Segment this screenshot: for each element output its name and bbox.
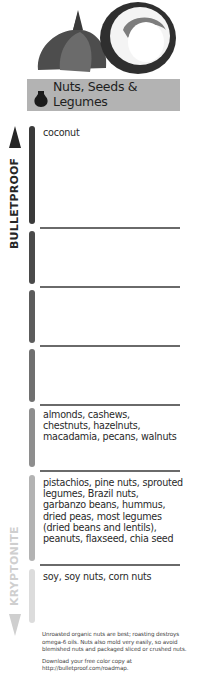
row-divider [40, 470, 180, 472]
pot-icon [34, 91, 48, 107]
row-divider [40, 227, 180, 229]
row-6-foods: pistachios, pine nuts, sprouted legumes,… [43, 477, 183, 544]
row-5-foods: almonds, cashews, chestnuts, hazelnuts, … [43, 409, 179, 443]
kryptonite-text: KRYPTONITE [8, 520, 22, 612]
row-divider [40, 564, 180, 566]
footer-notes: Unroasted organic nuts are best; roastin… [42, 631, 187, 677]
scale-pill-7 [29, 569, 35, 623]
arrow-down-icon [8, 614, 22, 636]
category-banner: Nuts, Seeds & Legumes [27, 79, 180, 111]
scale-pill-1 [29, 126, 35, 224]
category-title: Nuts, Seeds & Legumes [53, 80, 137, 109]
row-divider [40, 404, 180, 406]
bulletproof-label: BULLETPROOF [8, 126, 22, 256]
scale-pill-6 [29, 475, 35, 561]
footer-download: Download your free color copy at http://… [42, 658, 187, 673]
category-title-line1: Nuts, Seeds & [53, 80, 137, 95]
kryptonite-label: KRYPTONITE [8, 520, 22, 638]
garlic-coconut-illustration [28, 0, 178, 80]
row-7-foods: soy, soy nuts, corn nuts [43, 571, 183, 582]
scale-pill-5 [29, 408, 35, 467]
row-divider [40, 345, 180, 347]
scale-pill-4 [29, 349, 35, 402]
bulletproof-text: BULLETPROOF [8, 152, 22, 254]
arrow-up-icon [8, 126, 22, 148]
row-divider [40, 286, 180, 288]
footer-note: Unroasted organic nuts are best; roastin… [42, 631, 187, 654]
scale-pill-2 [29, 231, 35, 284]
scale-pill-3 [29, 290, 35, 343]
row-1-foods: coconut [43, 127, 183, 138]
category-title-line2: Legumes [53, 95, 137, 110]
